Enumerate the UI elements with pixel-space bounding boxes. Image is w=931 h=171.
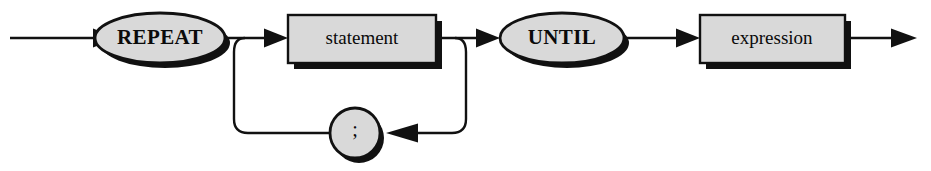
exit-arrowhead-icon (891, 29, 917, 48)
loop-return-arrowhead-icon (386, 124, 418, 143)
until-keyword-label: UNTIL (528, 25, 597, 49)
node-expression[interactable]: expression (700, 15, 851, 69)
node-until-keyword[interactable]: UNTIL (500, 13, 629, 68)
railroad-diagram-canvas: REPEAT statement UNTIL expression ; (0, 0, 931, 171)
until-to-expression-arrowhead-icon (676, 29, 700, 48)
statement-to-until-arrowhead-icon (476, 29, 500, 48)
repeat-to-statement-arrowhead-icon (264, 29, 288, 48)
semicolon-label: ; (352, 118, 358, 140)
node-repeat-keyword[interactable]: REPEAT (95, 13, 230, 68)
repeat-keyword-label: REPEAT (117, 25, 203, 49)
railroad-diagram-svg: REPEAT statement UNTIL expression ; (0, 0, 931, 171)
statement-label: statement (326, 27, 400, 48)
node-statement[interactable]: statement (288, 15, 442, 69)
node-semicolon-separator[interactable]: ; (330, 108, 384, 163)
expression-label: expression (731, 27, 813, 48)
